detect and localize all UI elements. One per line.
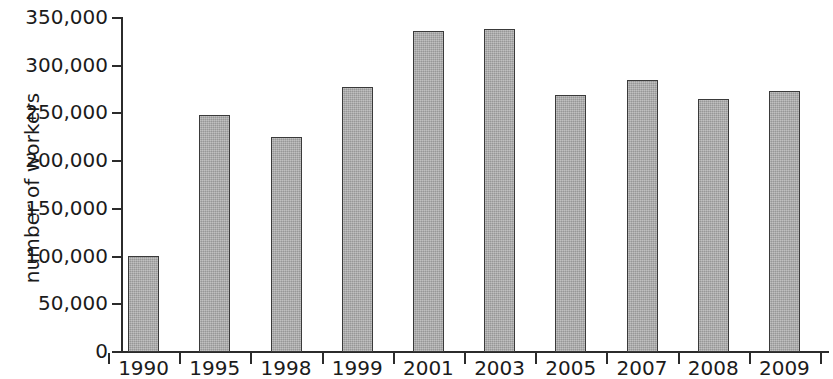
y-axis-tick-label: 350,000 bbox=[0, 7, 108, 27]
bar-2007 bbox=[627, 80, 658, 352]
bar-2009 bbox=[769, 91, 800, 352]
bar-2001 bbox=[413, 31, 444, 352]
y-axis-tick bbox=[112, 160, 122, 162]
x-axis-label-1990: 1990 bbox=[108, 357, 179, 379]
y-axis-tick-label: 300,000 bbox=[0, 55, 108, 75]
y-axis-tick bbox=[112, 208, 122, 210]
y-axis-tick-label-wrap: 250,000 bbox=[0, 102, 108, 122]
y-axis-tick bbox=[112, 256, 122, 258]
y-axis-tick bbox=[112, 351, 122, 353]
y-axis-tick bbox=[112, 65, 122, 67]
y-axis-tick bbox=[112, 303, 122, 305]
y-axis-tick-label-wrap: 300,000 bbox=[0, 55, 108, 75]
x-axis-label-1995: 1995 bbox=[179, 357, 250, 379]
y-axis-tick-label-wrap: 0 bbox=[0, 341, 108, 361]
bar-1990 bbox=[128, 256, 159, 352]
bar-1999 bbox=[342, 87, 373, 352]
bar-2005 bbox=[555, 95, 586, 352]
x-axis-label-2005: 2005 bbox=[535, 357, 606, 379]
y-axis-tick-label-wrap: 150,000 bbox=[0, 198, 108, 218]
bar-chart: number of workers 050,000100,000150,0002… bbox=[0, 0, 833, 379]
bar-2008 bbox=[698, 99, 729, 352]
y-axis-tick bbox=[112, 112, 122, 114]
bar-1995 bbox=[199, 115, 230, 352]
bar-1998 bbox=[271, 137, 302, 352]
x-axis-label-2001: 2001 bbox=[393, 357, 464, 379]
x-axis-label-1999: 1999 bbox=[322, 357, 393, 379]
y-axis-tick bbox=[112, 17, 122, 19]
y-axis-tick-label-wrap: 350,000 bbox=[0, 7, 108, 27]
y-axis-tick-label: 100,000 bbox=[0, 246, 108, 266]
y-axis-tick-label: 0 bbox=[0, 341, 108, 361]
bar-2003 bbox=[484, 29, 515, 352]
x-axis-label-2003: 2003 bbox=[464, 357, 535, 379]
x-axis-label-1998: 1998 bbox=[250, 357, 321, 379]
x-axis-label-2008: 2008 bbox=[678, 357, 749, 379]
y-axis-tick-label: 50,000 bbox=[0, 293, 108, 313]
y-axis-tick-label-wrap: 100,000 bbox=[0, 246, 108, 266]
x-axis-label-2007: 2007 bbox=[606, 357, 677, 379]
y-axis-tick-label-wrap: 50,000 bbox=[0, 293, 108, 313]
y-axis-tick-label: 250,000 bbox=[0, 102, 108, 122]
x-axis-label-2009: 2009 bbox=[749, 357, 820, 379]
y-axis-tick-label: 150,000 bbox=[0, 198, 108, 218]
y-axis-tick-label-wrap: 200,000 bbox=[0, 150, 108, 170]
y-axis-tick-label: 200,000 bbox=[0, 150, 108, 170]
x-axis-separator bbox=[820, 353, 822, 364]
